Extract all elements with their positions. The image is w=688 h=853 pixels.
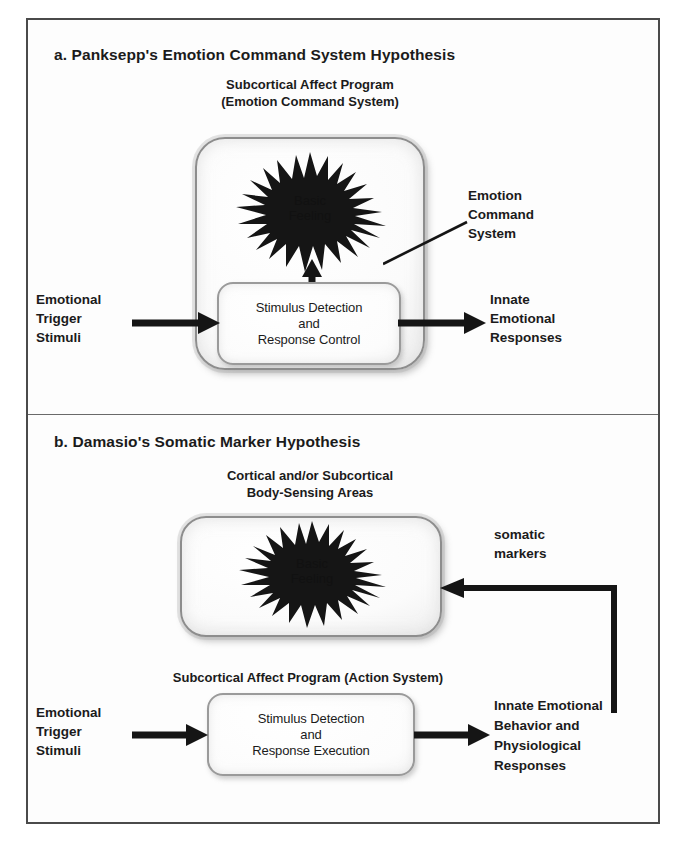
stimulus-detection-text-a: Stimulus Detection and Response Control [256,300,363,348]
panel-a-box-caption: Subcortical Affect Program (Emotion Comm… [145,76,475,110]
arrow-out-b [414,724,490,746]
arrow-in-a [132,312,220,334]
figure-frame: a. Panksepp's Emotion Command System Hyp… [26,18,660,824]
arrow-out-a [398,312,486,334]
arrow-in-b [132,724,208,746]
innate-emotional-responses-label-a: Innate Emotional Responses [490,290,640,347]
action-system-caption: Subcortical Affect Program (Action Syste… [88,669,528,686]
panel-b-title: b. Damasio's Somatic Marker Hypothesis [54,433,360,451]
panel-a: a. Panksepp's Emotion Command System Hyp… [28,20,658,414]
somatic-markers-label: somatic markers [494,525,634,563]
innate-emotional-behavior-label: Innate Emotional Behavior and Physiologi… [494,696,659,776]
callout-leader-line-a [383,220,473,266]
panel-b-box-caption: Cortical and/or Subcortical Body-Sensing… [145,467,475,501]
panel-b: b. Damasio's Somatic Marker Hypothesis C… [28,414,658,824]
stimulus-detection-text-b: Stimulus Detection and Response Executio… [252,711,369,759]
stimulus-detection-box-b: Stimulus Detection and Response Executio… [207,693,415,776]
emotion-command-system-callout: Emotion Command System [468,186,618,243]
stimulus-detection-box-a: Stimulus Detection and Response Control [217,282,401,365]
basic-feeling-starburst-b: Basic Feeling [228,519,396,635]
panel-a-title: a. Panksepp's Emotion Command System Hyp… [54,46,455,64]
